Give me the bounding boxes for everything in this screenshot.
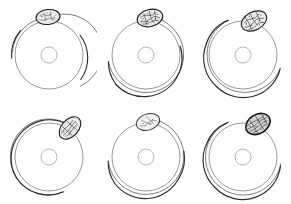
outer-arc-stroke-left [203,144,215,188]
inner-circle [138,47,154,63]
panel-5 [97,102,194,204]
main-circle [209,21,277,89]
panel-6 [194,102,291,204]
panel-5-outer-arc [108,120,184,199]
outer-arc-stroke-bottom [115,178,180,199]
main-circle [15,21,83,89]
panel-3-outer-arc [204,20,281,98]
outer-arc-soft-stroke [10,119,66,195]
nodule-outline [35,8,60,25]
panel-2 [97,0,194,102]
panel-1-outer-arc [11,14,97,86]
inner-circle [138,149,154,165]
outer-arc-soft-stroke [12,14,97,86]
outer-arc-stroke-bottom [17,178,64,195]
inner-circle [235,47,251,63]
outer-arc-soft-stroke [205,122,280,195]
outer-arc-stroke [11,31,20,58]
outer-arc-soft-stroke [109,20,184,93]
nodule-outline [135,7,164,30]
outer-arc-soft-stroke [207,20,281,92]
nodule-outline [242,109,274,139]
outer-arc-stroke-topleft [207,123,228,144]
outer-arc-stroke-bottom [217,70,280,98]
outer-arc-stroke-right [80,35,88,80]
main-circle [112,123,180,191]
nodule-outline [134,111,162,134]
inner-circle [41,47,57,63]
figure-canvas [0,0,291,204]
inner-circle [41,149,57,165]
panel-2-outer-arc [108,20,183,97]
outer-arc-stroke-bottom [116,78,177,97]
panel-6-outer-arc [203,122,281,199]
panel-1 [0,0,97,102]
nodule [135,7,164,30]
nodule [134,111,162,134]
main-circle [112,21,180,89]
nodule [55,113,85,144]
panel-3 [194,0,291,102]
nodule [35,8,60,25]
nodule [242,109,274,139]
panel-4-outer-arc [10,119,66,195]
panel-4 [0,102,97,204]
main-circle [209,123,277,191]
nodule [238,7,270,36]
inner-circle [235,149,251,165]
outer-arc-soft-stroke [108,120,184,195]
